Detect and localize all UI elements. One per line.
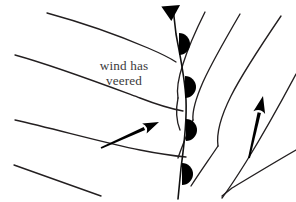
cold-front-triangle-icon xyxy=(161,5,180,21)
isobar-left-4 xyxy=(14,165,101,196)
wind-arrow-left xyxy=(101,122,159,149)
warm-front-semicircle-icon xyxy=(186,119,197,141)
arrow-head-icon xyxy=(142,122,159,134)
front-symbol-group xyxy=(161,5,197,185)
isobar-group-right xyxy=(177,12,296,198)
wind-arrow-right xyxy=(248,96,265,158)
isobar-group-left xyxy=(14,13,186,196)
diagram-canvas: wind has veered xyxy=(0,0,296,202)
isobar-left-3 xyxy=(15,120,186,157)
weather-front-diagram: wind has veered xyxy=(0,0,296,202)
warm-front-semicircle-icon xyxy=(185,76,196,98)
isobar-bottom-right xyxy=(222,150,296,196)
isobar-right-2 xyxy=(193,14,240,120)
isobar-inner-3 xyxy=(191,146,218,186)
arrow-head-icon xyxy=(253,96,265,114)
warm-front-semicircle-icon xyxy=(182,163,193,185)
arrow-shaft xyxy=(248,112,261,158)
warm-front-semicircle-icon xyxy=(179,33,190,55)
isobar-inner-1 xyxy=(177,98,180,130)
annotation-line-1: wind has xyxy=(100,58,148,73)
annotation-line-2: veered xyxy=(106,73,142,88)
isobar-left-1 xyxy=(47,13,176,62)
